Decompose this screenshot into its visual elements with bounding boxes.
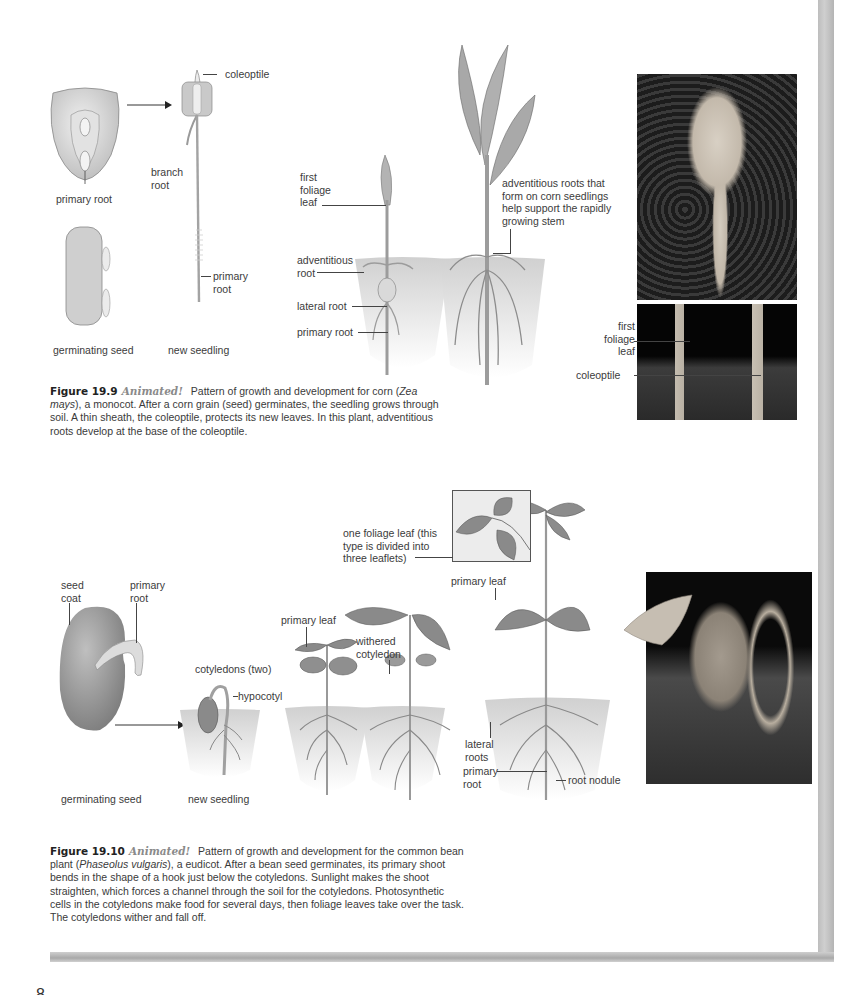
label-foliage-leaf-note: one foliage leaf (this type is divided i… [343, 527, 437, 565]
label-hypocotyl: hypocotyl [238, 690, 282, 703]
leader-line [634, 375, 761, 376]
label-adventitious-root: adventitious root [297, 254, 353, 279]
label-primary-leaf-large: primary leaf [451, 575, 506, 588]
leader-line [497, 771, 547, 772]
leader-line [495, 588, 496, 600]
leader-line [352, 306, 387, 307]
bean-leaf-overlay [622, 590, 702, 650]
corn-coleoptile-photo [637, 304, 797, 420]
leader-line [510, 229, 511, 253]
label-new-seedling: new seedling [188, 793, 249, 806]
leader-line [233, 696, 238, 697]
label-seed-coat: seed coat [61, 579, 84, 604]
label-new-seedling: new seedling [168, 344, 229, 357]
label-adventitious-roots-note: adventitious roots that form on corn see… [502, 177, 611, 227]
trifoliate-leaf-illustration [452, 490, 531, 562]
leader-line [358, 332, 388, 333]
leader-line [556, 780, 566, 781]
leader-line [490, 722, 491, 738]
leader-line [493, 253, 511, 254]
leader-line [322, 205, 386, 206]
label-primary-root-seed: primary root [130, 579, 165, 604]
leader-line [317, 272, 364, 273]
label-photo-first-foliage-leaf: first foliage leaf [604, 320, 635, 358]
figure-19-10-caption: Figure 19.10Animated!Pattern of growth a… [50, 845, 465, 924]
leader-line [201, 276, 211, 277]
label-primary-root-plant: primary root [297, 326, 353, 339]
label-lateral-roots: lateral roots [465, 738, 494, 763]
arrow-icon [127, 100, 172, 110]
arrow-icon [115, 720, 185, 730]
leader-line [389, 660, 390, 674]
animated-tag[interactable]: Animated! [122, 385, 183, 397]
corn-seedling-photo [637, 74, 797, 300]
page-edge-bottom [50, 952, 834, 962]
label-cotyledons: cotyledons (two) [195, 663, 271, 676]
leader-line [415, 557, 453, 558]
label-first-foliage-leaf: first foliage leaf [300, 171, 331, 209]
species-name: Phaseolus vulgaris [79, 858, 167, 870]
label-withered-cotyledon: withered cotyledon [356, 635, 401, 660]
label-germinating-seed: germinating seed [53, 344, 134, 357]
corn-kernel-illustration [45, 85, 125, 190]
page-number: 8 [36, 985, 45, 995]
label-branch-root: branch root [151, 166, 183, 191]
caption-text: Pattern of growth and development for co… [191, 385, 399, 397]
leader-line [634, 341, 690, 342]
label-primary-root-seedling: primary root [213, 270, 248, 295]
label-primary-root-plant: primary root [463, 765, 498, 790]
leader-line [69, 603, 70, 625]
leader-line [306, 627, 307, 647]
figure-19-9-caption: Figure 19.9Animated!Pattern of growth an… [50, 385, 450, 438]
figure-number: Figure 19.10 [50, 845, 125, 857]
label-photo-coleoptile: coleoptile [576, 369, 620, 382]
label-coleoptile: coleoptile [225, 68, 269, 81]
corn-kernel-side-illustration [62, 225, 112, 330]
label-primary-leaf-small: primary leaf [281, 614, 336, 627]
young-corn-plant-illustration [355, 155, 450, 385]
figure-number: Figure 19.9 [50, 385, 118, 397]
label-lateral-root: lateral root [297, 300, 347, 313]
label-germinating-seed: germinating seed [61, 793, 142, 806]
leader-line [136, 603, 137, 643]
leader-line [203, 74, 217, 75]
animated-tag[interactable]: Animated! [129, 845, 190, 857]
bean-plant-withered-cotyledon-illustration [340, 590, 465, 800]
label-primary-root: primary root [56, 193, 112, 206]
bean-seed-illustration [55, 605, 155, 735]
label-root-nodule: root nodule [568, 774, 621, 787]
page-edge-right [818, 0, 834, 962]
caption-text: ), a monocot. After a corn grain (seed) … [50, 398, 439, 436]
